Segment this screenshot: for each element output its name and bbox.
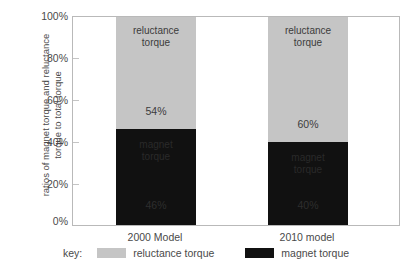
- legend-label-reluctance-torque: reluctance torque: [133, 247, 214, 259]
- legend-item-magnet-torque: magnet torque: [245, 247, 349, 259]
- legend-label-magnet-torque: magnet torque: [281, 247, 349, 259]
- y-tick-mark-20: [73, 184, 79, 185]
- y-tick-mark-60: [73, 100, 79, 101]
- bar-segment-magnet-2000: magnet torque 46%: [116, 129, 196, 225]
- bar-2010-model: reluctance torque 60% magnet torque 40%: [268, 17, 348, 225]
- chart-legend: key: reluctance torque magnet torque: [0, 247, 412, 259]
- segment-label-line-2: torque: [142, 151, 170, 162]
- segment-value-reluctance-2000: 54%: [116, 105, 196, 117]
- legend-swatch-reluctance-icon: [97, 248, 126, 258]
- segment-label-line-1: magnet: [291, 152, 324, 163]
- y-tick-label-0: 0%: [24, 216, 68, 227]
- segment-label-line-2: torque: [142, 37, 170, 48]
- stacked-bar-chart: ratios of magnet torque and reluctance t…: [0, 0, 412, 267]
- legend-key-word: key:: [63, 247, 82, 259]
- x-axis-label-2000-model: 2000 Model: [85, 231, 225, 243]
- segment-value-reluctance-2010: 60%: [268, 118, 348, 130]
- segment-label-reluctance-2010: reluctance torque: [268, 25, 348, 49]
- bar-segment-reluctance-2010: reluctance torque 60%: [268, 17, 348, 142]
- segment-label-line-2: torque: [294, 37, 322, 48]
- y-tick-label-100: 100%: [24, 11, 68, 22]
- segment-label-line-1: reluctance: [285, 25, 331, 36]
- segment-label-line-1: magnet: [139, 139, 172, 150]
- segment-label-magnet-2010: magnet torque: [268, 152, 348, 176]
- x-axis-label-2010-model: 2010 model: [237, 231, 377, 243]
- plot-area: reluctance torque 54% magnet torque 46% …: [72, 16, 400, 226]
- segment-label-magnet-2000: magnet torque: [116, 139, 196, 163]
- y-tick-label-60: 60%: [24, 95, 68, 106]
- bar-segment-magnet-2010: magnet torque 40%: [268, 142, 348, 225]
- segment-value-magnet-2000: 46%: [116, 199, 196, 211]
- bar-2000-model: reluctance torque 54% magnet torque 46%: [116, 17, 196, 225]
- y-tick-label-20: 20%: [24, 179, 68, 190]
- y-tick-mark-80: [73, 58, 79, 59]
- y-tick-label-40: 40%: [24, 137, 68, 148]
- segment-label-line-1: reluctance: [133, 25, 179, 36]
- segment-value-magnet-2010: 40%: [268, 199, 348, 211]
- y-axis-tick-labels: 100% 80% 60% 40% 20% 0%: [22, 0, 68, 267]
- segment-label-line-2: torque: [294, 164, 322, 175]
- bar-segment-reluctance-2000: reluctance torque 54%: [116, 17, 196, 129]
- segment-label-reluctance-2000: reluctance torque: [116, 25, 196, 49]
- y-tick-mark-40: [73, 142, 79, 143]
- legend-item-reluctance-torque: reluctance torque: [97, 247, 214, 259]
- y-tick-label-80: 80%: [24, 53, 68, 64]
- legend-swatch-magnet-icon: [245, 248, 274, 258]
